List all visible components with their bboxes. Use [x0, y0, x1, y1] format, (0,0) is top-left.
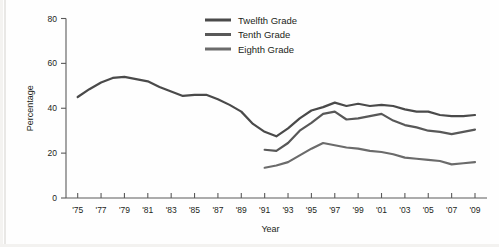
y-tick-label: 0	[52, 193, 57, 203]
x-tick-label: '83	[166, 205, 177, 215]
x-tick-label: '01	[376, 205, 387, 215]
legend-label-tenth-grade: Tenth Grade	[238, 29, 290, 40]
series-line-eighth-grade	[265, 143, 475, 168]
series-line-tenth-grade	[265, 112, 475, 151]
x-tick-label: '99	[353, 205, 364, 215]
x-tick-label: '75	[72, 205, 83, 215]
x-tick-label: '93	[282, 205, 293, 215]
chart-canvas: 020406080 '75'77'79'81'83'85'87'89'91'93…	[0, 0, 499, 247]
x-tick-label: '81	[142, 205, 153, 215]
x-axis-title: Year	[261, 224, 279, 234]
x-tick-label: '79	[119, 205, 130, 215]
y-tick-label: 40	[48, 103, 58, 113]
x-tick-label: '05	[423, 205, 434, 215]
x-tick-label: '09	[469, 205, 480, 215]
y-tick-marks	[61, 19, 66, 199]
legend-label-twelfth-grade: Twelfth Grade	[238, 15, 297, 26]
x-tick-label: '91	[259, 205, 270, 215]
x-tick-label: '07	[446, 205, 457, 215]
x-tick-marks	[78, 193, 475, 198]
data-series-group	[78, 77, 475, 168]
x-tick-label: '85	[189, 205, 200, 215]
y-tick-labels: 020406080	[48, 14, 58, 204]
y-tick-label: 60	[48, 58, 58, 68]
x-tick-label: '97	[329, 205, 340, 215]
x-tick-labels: '75'77'79'81'83'85'87'89'91'93'95'97'99'…	[72, 205, 481, 215]
y-tick-label: 20	[48, 148, 58, 158]
x-tick-label: '89	[236, 205, 247, 215]
y-tick-label: 80	[48, 14, 58, 24]
x-tick-label: '87	[212, 205, 223, 215]
x-tick-label: '95	[306, 205, 317, 215]
line-chart: 020406080 '75'77'79'81'83'85'87'89'91'93…	[0, 0, 499, 247]
x-tick-label: '77	[96, 205, 107, 215]
legend-label-eighth-grade: Eighth Grade	[238, 44, 294, 55]
y-axis-title: Percentage	[25, 85, 35, 131]
chart-legend: Twelfth GradeTenth GradeEighth Grade	[205, 15, 297, 55]
x-tick-label: '03	[399, 205, 410, 215]
